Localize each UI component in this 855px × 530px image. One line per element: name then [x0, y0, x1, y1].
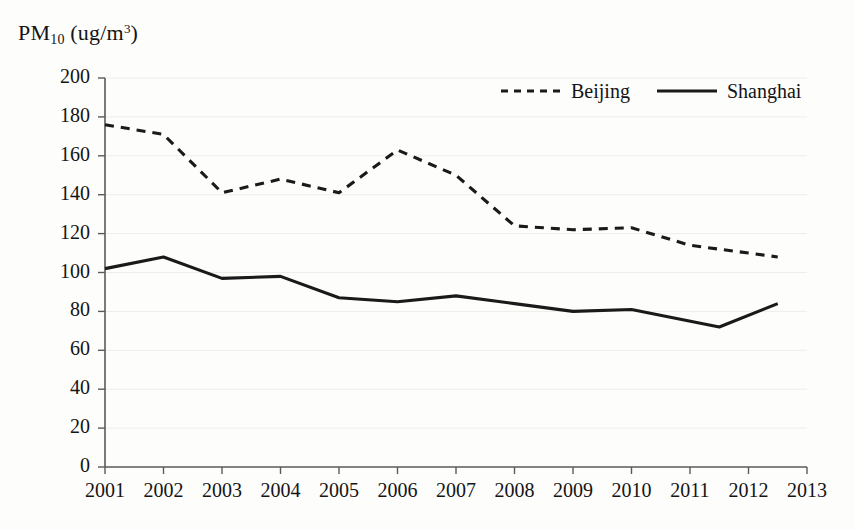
y-axis-tick-label: 180 [34, 104, 90, 127]
y-axis-tick-label: 80 [34, 298, 90, 321]
y-axis-tick-label: 40 [34, 376, 90, 399]
legend-swatch-dashed-icon [500, 85, 562, 97]
data-series-group [105, 125, 778, 327]
y-axis-tick-label: 160 [34, 143, 90, 166]
legend-swatch-solid-icon [656, 85, 718, 97]
x-axis-ticks [105, 467, 807, 474]
legend-entry-beijing: Beijing [500, 80, 630, 103]
gridlines [105, 78, 807, 428]
y-axis-tick-label: 200 [34, 65, 90, 88]
legend-entry-shanghai: Shanghai [656, 80, 801, 103]
y-axis-tick-label: 120 [34, 221, 90, 244]
y-axis-ticks [98, 78, 105, 467]
y-axis-tick-label: 0 [34, 454, 90, 477]
y-axis-tick-label: 140 [34, 182, 90, 205]
legend-label-beijing: Beijing [571, 80, 630, 103]
chart-figure: PM10 (ug/m3) 200180160140120100806040200… [0, 0, 855, 530]
x-axis-tick-label: 2013 [772, 479, 842, 502]
y-axis-tick-label: 100 [34, 260, 90, 283]
y-axis-tick-label: 60 [34, 337, 90, 360]
chart-legend: Beijing Shanghai [500, 78, 801, 104]
y-axis-tick-label: 20 [34, 415, 90, 438]
series-line-beijing [105, 125, 778, 257]
legend-label-shanghai: Shanghai [727, 80, 801, 103]
series-line-shanghai [105, 257, 778, 327]
